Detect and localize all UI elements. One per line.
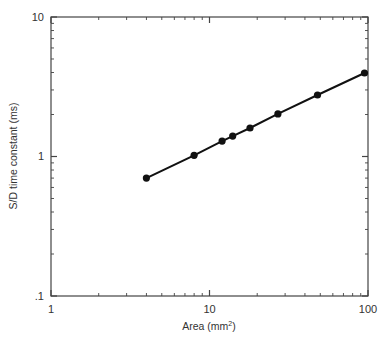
data-point-marker bbox=[361, 69, 368, 76]
data-point-marker bbox=[246, 124, 253, 131]
data-point-marker bbox=[191, 152, 198, 159]
y-tick-label-1: 1 bbox=[38, 150, 44, 162]
x-tick-label-1: 1 bbox=[48, 303, 54, 315]
y-axis-title: S/D time constant (ms) bbox=[7, 103, 19, 210]
x-tick-label-10: 10 bbox=[203, 303, 215, 315]
minor-ticks bbox=[51, 17, 368, 296]
data-point-marker bbox=[143, 175, 150, 182]
data-point-marker bbox=[229, 133, 236, 140]
y-tick-label-0.1: .1 bbox=[35, 290, 44, 302]
data-point-marker bbox=[274, 110, 281, 117]
series-line bbox=[146, 73, 364, 178]
x-axis-title: Area (mm2) bbox=[182, 320, 236, 332]
data-point-marker bbox=[219, 138, 226, 145]
x-tick-label-100: 100 bbox=[359, 303, 377, 315]
major-ticks bbox=[51, 17, 368, 296]
data-point-marker bbox=[314, 91, 321, 98]
plot-frame bbox=[51, 17, 368, 296]
chart-figure: 10 1 .1 1 10 100 Area (mm2) S/D time con… bbox=[0, 0, 387, 345]
y-tick-label-10: 10 bbox=[32, 11, 44, 23]
